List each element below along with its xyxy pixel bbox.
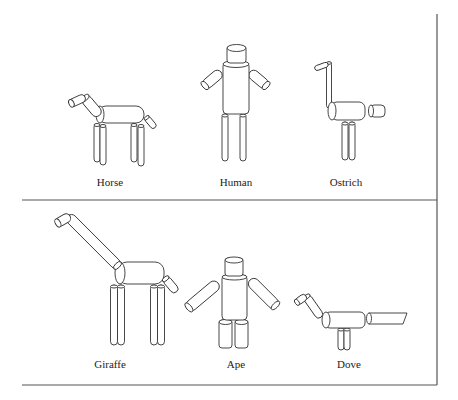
label-horse: Horse [97,176,123,188]
horse-model [67,93,157,166]
figure: Horse Human Ostrich Giraffe Ape Dove [0,0,458,400]
human-model [200,45,271,162]
label-ape: Ape [227,358,245,370]
giraffe-model [53,212,179,345]
label-ostrich: Ostrich [330,176,362,188]
label-human: Human [220,176,252,188]
dove-model [293,293,407,350]
ape-model [183,257,281,348]
ostrich-model [314,62,385,160]
cylinder-models-drawing [0,0,458,400]
label-giraffe: Giraffe [94,358,126,370]
label-dove: Dove [337,358,361,370]
